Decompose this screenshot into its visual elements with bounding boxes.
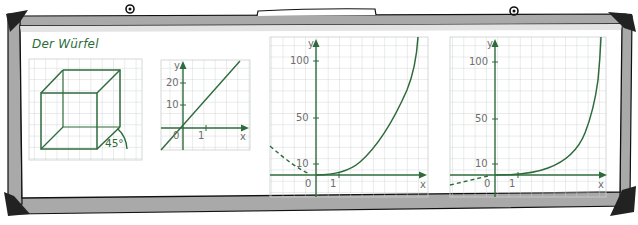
x-axis-label: x — [420, 179, 426, 190]
x-tick-1: 1 — [509, 178, 515, 189]
y-tick-50: 50 — [475, 113, 488, 124]
y-tick-10: 10 — [475, 158, 488, 169]
x-axis-label: x — [240, 131, 246, 142]
board-frame: 45° y 20 10 0 1 x — [0, 0, 638, 225]
y-axis-label: y — [174, 60, 180, 71]
y-axis-label: y — [308, 38, 314, 49]
board-title: Der Würfel — [32, 37, 99, 51]
chalkboard: 45° y 20 10 0 1 x — [0, 0, 638, 225]
tray-handle — [257, 9, 376, 16]
cube-graph: y 100 50 10 0 1 x — [450, 37, 607, 197]
angle-label: 45° — [105, 137, 124, 149]
x-tick-1: 1 — [330, 178, 336, 189]
y-tick-100: 100 — [469, 56, 488, 67]
origin-label: 0 — [173, 130, 179, 141]
y-tick-100: 100 — [290, 55, 309, 66]
cube-figure: 45° — [29, 59, 142, 160]
y-tick-10: 10 — [296, 158, 309, 169]
origin-label: 0 — [484, 178, 490, 189]
y-tick-20: 20 — [166, 77, 179, 88]
x-tick-1: 1 — [198, 130, 204, 141]
hook-left-icon — [126, 5, 134, 13]
y-tick-50: 50 — [296, 112, 309, 123]
y-axis-label: y — [487, 38, 493, 49]
x-axis-label: x — [598, 179, 604, 190]
square-graph: y 100 50 10 0 1 x — [270, 37, 428, 197]
y-tick-10: 10 — [166, 99, 179, 110]
linear-graph: y 20 10 0 1 x — [161, 60, 250, 150]
origin-label: 0 — [305, 178, 311, 189]
